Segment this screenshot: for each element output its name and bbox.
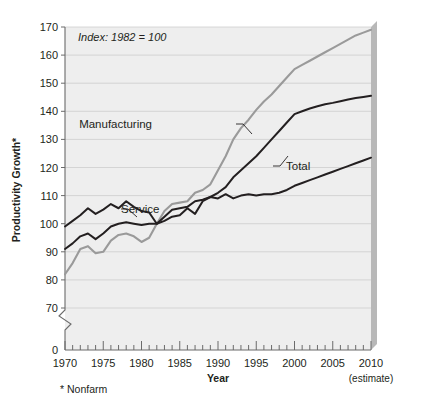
y-tick-label: 140: [40, 105, 58, 117]
x-tick-label: 2010: [359, 357, 383, 369]
x-tick-label: 1990: [206, 357, 230, 369]
series-label-manufacturing: Manufacturing: [79, 118, 152, 130]
series-label-service: Service: [121, 203, 159, 215]
y-axis-tick-labels: 0708090100110120130140150160170: [40, 21, 65, 356]
y-tick-label: 0: [52, 344, 58, 356]
chart-canvas: 0708090100110120130140150160170 19701975…: [0, 0, 437, 416]
x-tick-label: 2005: [321, 357, 345, 369]
plot-background: [65, 27, 371, 350]
x-tick-label: 1980: [129, 357, 153, 369]
y-tick-label: 160: [40, 49, 58, 61]
y-tick-label: 130: [40, 133, 58, 145]
y-tick-label: 100: [40, 218, 58, 230]
y-tick-label: 110: [40, 190, 58, 202]
x-axis-title: Year: [207, 372, 229, 384]
y-tick-label: 170: [40, 21, 58, 33]
y-tick-label: 150: [40, 77, 58, 89]
productivity-growth-chart: 0708090100110120130140150160170 19701975…: [0, 0, 437, 416]
y-tick-label: 80: [46, 274, 58, 286]
series-label-total: Total: [286, 160, 310, 172]
x-tick-label: 2000: [282, 357, 306, 369]
index-annotation: Index: 1982 = 100: [78, 31, 167, 43]
x-tick-label: 1970: [53, 357, 77, 369]
x-axis-tick-labels: 197019751980198519901995200020052010: [53, 357, 383, 369]
chart-footnote: * Nonfarm: [60, 383, 108, 395]
x-tick-label: 1985: [168, 357, 192, 369]
y-tick-label: 90: [46, 246, 58, 258]
y-tick-label: 70: [46, 302, 58, 314]
x-tick-label: 1975: [91, 357, 115, 369]
y-tick-label: 120: [40, 162, 58, 174]
x-tick-label: 1995: [244, 357, 268, 369]
y-axis-title: Productivity Growth*: [10, 137, 22, 242]
estimate-note: (estimate): [349, 373, 393, 384]
